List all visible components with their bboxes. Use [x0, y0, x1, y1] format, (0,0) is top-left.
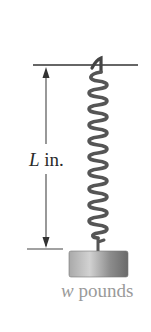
- arrow-down-icon: [43, 237, 50, 248]
- arrow-up-icon: [43, 67, 50, 78]
- spring-bottom-hook: [98, 238, 104, 252]
- length-variable: L: [29, 149, 40, 170]
- spring-icon: [89, 72, 107, 238]
- weight-block: [69, 251, 128, 277]
- length-unit: in.: [44, 149, 64, 170]
- weight-variable: w: [61, 280, 74, 301]
- weight-label: w pounds: [61, 280, 133, 302]
- weight-unit: pounds: [78, 280, 133, 301]
- length-label: L in.: [29, 148, 64, 172]
